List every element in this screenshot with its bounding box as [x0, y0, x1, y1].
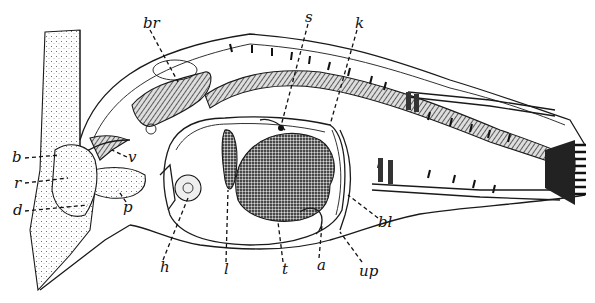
label-up: up: [359, 262, 379, 280]
elongated-structure: [222, 130, 237, 189]
anterior-tissue: [52, 145, 97, 216]
label-l: l: [224, 260, 229, 278]
label-h: h: [160, 258, 170, 276]
label-s: s: [305, 8, 313, 26]
label-p: p: [123, 198, 133, 216]
tail-fringe: [545, 140, 586, 205]
label-b: b: [12, 148, 22, 166]
large-mass: [236, 133, 335, 221]
label-t: t: [282, 260, 289, 278]
label-bl: bl: [378, 213, 393, 231]
anatomical-diagram: br s k b r d v p h l t a up bl: [0, 0, 595, 303]
label-a: a: [317, 256, 326, 274]
label-v: v: [128, 148, 137, 166]
label-k: k: [355, 14, 364, 32]
label-br: br: [143, 14, 161, 32]
label-r: r: [14, 174, 22, 192]
brain-structure: [132, 60, 211, 134]
node-structure: [260, 119, 285, 131]
label-d: d: [13, 201, 23, 219]
